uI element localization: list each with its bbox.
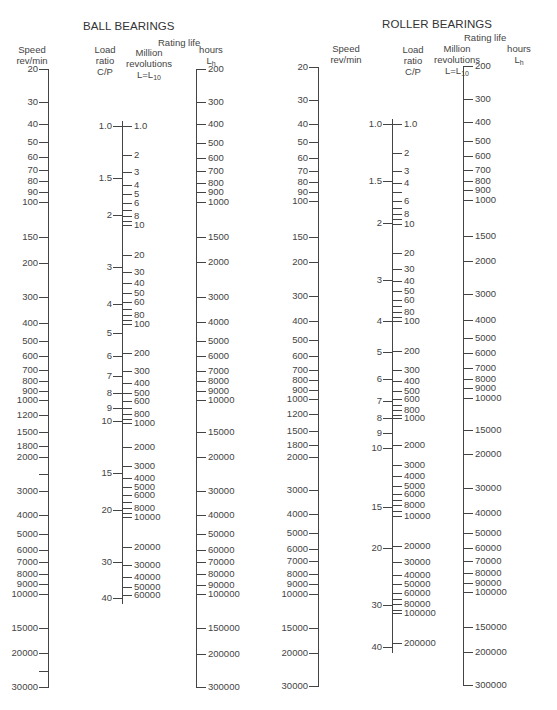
chart-title: BALL BEARINGS xyxy=(83,20,175,32)
tick-label: 100000 xyxy=(404,608,436,618)
tick-label: 6 xyxy=(404,196,409,206)
tick-mark xyxy=(39,391,48,392)
tick-mark xyxy=(123,353,132,354)
tick-label: 600 xyxy=(475,151,491,161)
tick-mark xyxy=(39,341,48,342)
tick-label: 50 xyxy=(27,137,38,147)
tick-label: 7000 xyxy=(287,556,308,566)
tick-label: 5 xyxy=(107,328,112,338)
tick-label: 200000 xyxy=(475,647,507,657)
tick-label: 20000 xyxy=(404,541,430,551)
tick-label: 1.5 xyxy=(369,176,382,186)
load-header-line3: C/P xyxy=(90,66,120,77)
tick-label: 1000 xyxy=(404,413,425,423)
tick-mark xyxy=(309,296,318,297)
axis-line xyxy=(48,69,49,688)
tick-mark xyxy=(113,408,122,409)
tick-mark xyxy=(39,653,48,654)
tick-label: 40 xyxy=(371,642,382,652)
tick-label: 300 xyxy=(404,365,420,375)
tick-mark xyxy=(309,686,318,687)
tick-mark xyxy=(393,584,402,585)
tick-mark xyxy=(197,341,206,342)
tick-mark xyxy=(464,573,473,574)
tick-label: 20 xyxy=(297,62,308,72)
million-header-line3: L=L10 xyxy=(126,69,172,83)
tick-label: 30 xyxy=(297,95,308,105)
tick-label: 3 xyxy=(377,275,382,285)
tick-label: 500 xyxy=(475,136,491,146)
tick-label: 80 xyxy=(27,176,38,186)
tick-mark xyxy=(393,281,402,282)
tick-label: 600 xyxy=(22,351,38,361)
tick-mark xyxy=(309,390,318,391)
tick-mark xyxy=(383,124,392,125)
tick-label: 30 xyxy=(404,264,415,274)
tick-mark xyxy=(197,491,206,492)
axis-line xyxy=(392,119,393,653)
tick-mark xyxy=(39,446,48,447)
tick-label: 1800 xyxy=(287,440,308,450)
tick-label: 60 xyxy=(297,153,308,163)
tick-label: 20 xyxy=(404,248,415,258)
tick-label: 1.5 xyxy=(99,173,112,183)
tick-mark xyxy=(113,562,122,563)
tick-mark xyxy=(309,628,318,629)
tick-mark xyxy=(123,210,132,211)
tick-label: 4000 xyxy=(287,509,308,519)
tick-mark xyxy=(113,304,122,305)
tick-mark xyxy=(123,255,132,256)
tick-mark xyxy=(113,215,122,216)
tick-mark xyxy=(197,124,206,125)
load-header-line1: Load xyxy=(90,44,120,55)
tick-label: 30 xyxy=(134,267,145,277)
tick-label: 10 xyxy=(101,416,112,426)
tick-mark xyxy=(123,225,132,226)
tick-mark xyxy=(309,399,318,400)
tick-mark xyxy=(113,376,122,377)
tick-mark xyxy=(123,587,132,588)
tick-label: 40000 xyxy=(208,510,234,520)
tick-mark xyxy=(464,454,473,455)
million-header-line1: Million xyxy=(434,43,480,54)
tick-mark xyxy=(309,490,318,491)
tick-mark xyxy=(464,99,473,100)
tick-mark xyxy=(464,398,473,399)
tick-label: 400 xyxy=(475,117,491,127)
tick-label: 300 xyxy=(134,366,150,376)
tick-mark xyxy=(393,153,402,154)
tick-mark xyxy=(39,415,48,416)
tick-mark xyxy=(197,550,206,551)
tick-mark xyxy=(123,517,132,518)
tick-label: 60000 xyxy=(475,543,501,553)
tick-label: 7000 xyxy=(17,557,38,567)
tick-mark xyxy=(39,237,48,238)
tick-label: 60000 xyxy=(404,588,430,598)
tick-mark xyxy=(464,379,473,380)
tick-mark xyxy=(309,262,318,263)
tick-mark xyxy=(393,214,402,215)
tick-mark xyxy=(197,297,206,298)
tick-mark xyxy=(393,192,402,193)
tick-label: 15000 xyxy=(282,623,308,633)
tick-label: 1500 xyxy=(287,426,308,436)
tick-mark xyxy=(393,604,402,605)
tick-mark xyxy=(197,143,206,144)
tick-label: 100000 xyxy=(208,589,240,599)
tick-label: 2000 xyxy=(134,442,155,452)
tick-mark xyxy=(464,388,473,389)
load-header: Load ratio C/P xyxy=(90,44,120,77)
tick-mark xyxy=(39,157,48,158)
tick-mark xyxy=(309,431,318,432)
tick-label: 1000 xyxy=(17,395,38,405)
tick-mark xyxy=(393,312,402,313)
tick-label: 1000 xyxy=(208,197,229,207)
tick-mark xyxy=(393,613,402,614)
tick-mark xyxy=(309,237,318,238)
tick-mark xyxy=(383,507,392,508)
tick-mark xyxy=(123,272,132,273)
tick-label: 300000 xyxy=(475,680,507,690)
tick-mark xyxy=(393,593,402,594)
tick-mark xyxy=(39,263,48,264)
tick-mark xyxy=(39,432,48,433)
